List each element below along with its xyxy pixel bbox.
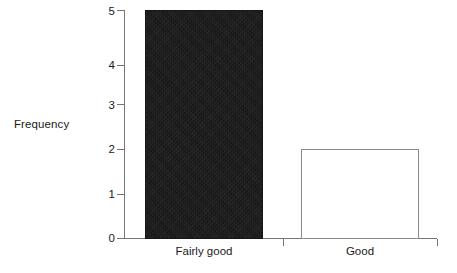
y-tick-mark-0: [117, 238, 124, 239]
y-tick-label-5: 5: [99, 5, 115, 17]
y-tick-label-3: 3: [99, 99, 115, 111]
y-tick-mark-5: [117, 10, 124, 11]
bar-fairly-good[interactable]: [145, 10, 263, 239]
x-tick-mark-end: [437, 239, 438, 246]
y-tick-label-4: 4: [99, 59, 115, 71]
x-tick-mark-separator: [283, 239, 284, 246]
y-axis-line: [124, 10, 125, 239]
y-tick-label-0: 0: [99, 232, 115, 244]
bar-chart: Frequency 5 4 3 2 1 0 Fairly good Good: [0, 0, 457, 273]
y-tick-label-2: 2: [99, 143, 115, 155]
x-tick-label-fairly-good: Fairly good: [145, 245, 263, 258]
y-axis-label: Frequency: [14, 118, 69, 130]
y-tick-mark-2: [117, 149, 124, 150]
y-tick-label-1: 1: [99, 188, 115, 200]
y-tick-mark-3: [117, 104, 124, 105]
x-tick-label-good: Good: [301, 245, 419, 258]
bar-good[interactable]: [301, 149, 419, 239]
y-tick-mark-4: [117, 65, 124, 66]
y-tick-mark-1: [117, 194, 124, 195]
